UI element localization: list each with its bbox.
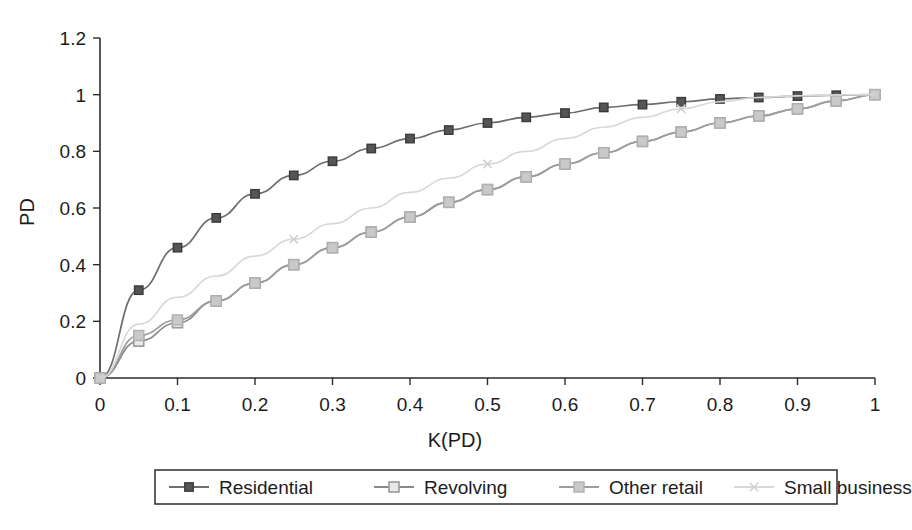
x-tick-label: 0.5 <box>474 394 500 415</box>
data-point-marker <box>561 109 569 117</box>
data-point-marker <box>560 159 570 169</box>
data-point-marker <box>367 144 375 152</box>
data-point-marker <box>638 100 646 108</box>
data-point-marker <box>444 197 454 207</box>
data-point-marker <box>715 118 725 128</box>
data-point-marker <box>445 126 453 134</box>
series-line <box>100 95 875 378</box>
x-tick-label: 0.8 <box>707 394 733 415</box>
series-line <box>100 95 875 378</box>
data-series-layer <box>95 90 880 383</box>
y-tick-label: 0.4 <box>60 255 87 276</box>
y-tick-label: 0.2 <box>60 311 86 332</box>
x-tick-label: 0 <box>95 394 106 415</box>
data-point-marker <box>638 136 648 146</box>
data-point-marker <box>328 243 338 253</box>
data-point-marker <box>250 278 260 288</box>
series-residential <box>96 90 879 382</box>
data-point-marker <box>173 315 183 325</box>
x-axis-tick-labels: 00.10.20.30.40.50.60.70.80.91 <box>95 394 881 415</box>
data-point-marker <box>574 482 584 492</box>
y-axis-tick-labels: 00.20.40.60.811.2 <box>60 28 87 389</box>
x-tick-label: 0.2 <box>242 394 268 415</box>
legend-item-label: Other retail <box>609 477 703 498</box>
data-point-marker <box>483 185 493 195</box>
data-point-marker <box>135 286 143 294</box>
series-revolving <box>95 90 880 383</box>
data-point-marker <box>793 104 803 114</box>
chart-container: 00.20.40.60.811.2 00.10.20.30.40.50.60.7… <box>0 0 912 530</box>
data-point-marker <box>483 119 491 127</box>
series-other-retail <box>95 90 880 383</box>
x-tick-label: 0.7 <box>629 394 655 415</box>
data-point-marker <box>521 172 531 182</box>
data-point-marker <box>211 296 221 306</box>
data-point-marker <box>522 113 530 121</box>
data-point-marker <box>251 190 259 198</box>
data-point-marker <box>600 103 608 111</box>
legend-item-label: Residential <box>219 477 313 498</box>
data-point-marker <box>754 111 764 121</box>
data-point-marker <box>405 212 415 222</box>
series-line <box>100 95 875 378</box>
x-tick-label: 0.4 <box>397 394 424 415</box>
chart-svg: 00.20.40.60.811.2 00.10.20.30.40.50.60.7… <box>0 0 912 530</box>
y-tick-label: 0 <box>75 368 86 389</box>
data-point-marker <box>676 127 686 137</box>
data-point-marker <box>290 171 298 179</box>
x-tick-label: 0.1 <box>164 394 190 415</box>
y-tick-label: 1.2 <box>60 28 86 49</box>
data-point-marker <box>406 134 414 142</box>
y-tick-label: 0.6 <box>60 198 86 219</box>
data-point-marker <box>328 157 336 165</box>
x-tick-label: 0.3 <box>319 394 345 415</box>
chart-legend: ResidentialRevolvingOther retailSmall bu… <box>155 470 912 504</box>
data-point-marker <box>185 483 193 491</box>
axis-tick-marks <box>93 38 875 385</box>
data-point-marker <box>366 227 376 237</box>
data-point-marker <box>173 243 181 251</box>
data-point-marker <box>599 148 609 158</box>
y-axis-title: PD <box>16 198 38 226</box>
series-line <box>100 95 875 378</box>
legend-item-label: Revolving <box>424 477 507 498</box>
x-tick-label: 1 <box>870 394 881 415</box>
x-tick-label: 0.9 <box>784 394 810 415</box>
x-tick-label: 0.6 <box>552 394 578 415</box>
data-point-marker <box>677 98 685 106</box>
legend-item-label: Small business <box>784 477 912 498</box>
y-tick-label: 1 <box>75 85 86 106</box>
data-point-marker <box>389 482 399 492</box>
data-point-marker <box>212 214 220 222</box>
x-axis-title: K(PD) <box>428 429 482 451</box>
series-small-business <box>96 90 879 382</box>
y-tick-label: 0.8 <box>60 141 86 162</box>
data-point-marker <box>134 331 144 341</box>
data-point-marker <box>831 96 841 106</box>
axis-lines <box>100 38 875 378</box>
data-point-marker <box>289 260 299 270</box>
